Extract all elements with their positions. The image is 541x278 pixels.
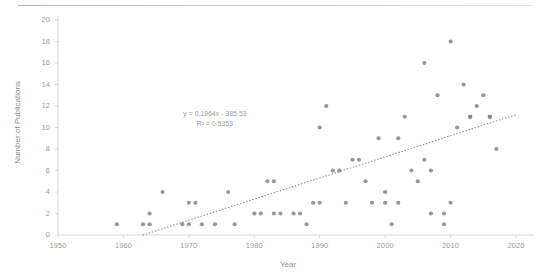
y-tick-label: 16 (24, 58, 50, 67)
data-point (377, 136, 381, 140)
x-tick-label: 2020 (496, 241, 536, 250)
trendline (143, 115, 516, 235)
trendline-equation: y = 0.1964x - 385.53 (160, 109, 270, 119)
data-point (448, 39, 452, 43)
trendline-r-squared: R² = 0.5353 (160, 119, 270, 129)
data-point (259, 211, 263, 215)
data-point (193, 201, 197, 205)
data-point (298, 211, 302, 215)
y-tick-label: 8 (24, 144, 50, 153)
data-point (200, 222, 204, 226)
y-tick-label: 0 (24, 230, 50, 239)
data-point (429, 168, 433, 172)
data-point (383, 201, 387, 205)
trendline-annotation: y = 0.1964x - 385.53 R² = 0.5353 (160, 109, 270, 129)
data-point (180, 222, 184, 226)
x-axis-title: Year (258, 260, 318, 269)
data-point (265, 179, 269, 183)
x-tick-label: 1990 (300, 241, 340, 250)
data-point (383, 190, 387, 194)
data-point (252, 211, 256, 215)
data-point (305, 222, 309, 226)
data-point (390, 222, 394, 226)
y-tick-label: 20 (24, 15, 50, 24)
data-point (468, 115, 472, 119)
x-tick-label: 1950 (38, 241, 78, 250)
data-point (481, 93, 485, 97)
y-tick-label: 18 (24, 37, 50, 46)
data-point (494, 147, 498, 151)
data-point (233, 222, 237, 226)
x-tick-label: 2010 (431, 241, 471, 250)
data-point (442, 222, 446, 226)
data-point (187, 201, 191, 205)
data-point (213, 222, 217, 226)
data-point (337, 168, 341, 172)
data-point (396, 201, 400, 205)
data-point (161, 190, 165, 194)
data-point (488, 115, 492, 119)
x-tick-label: 1960 (103, 241, 143, 250)
data-point (324, 104, 328, 108)
y-axis-title: Number of Publications (13, 73, 22, 173)
data-point (416, 179, 420, 183)
data-point (187, 222, 191, 226)
data-point (422, 61, 426, 65)
data-point (442, 211, 446, 215)
data-point (291, 211, 295, 215)
data-point (370, 201, 374, 205)
data-point (396, 136, 400, 140)
data-point (350, 158, 354, 162)
data-point (344, 201, 348, 205)
y-tick-label: 6 (24, 166, 50, 175)
data-point (272, 179, 276, 183)
data-point (422, 158, 426, 162)
x-tick-label: 1970 (169, 241, 209, 250)
publications-scatter-chart: 02468101214161820 1950196019701980199020… (0, 0, 541, 278)
data-point (429, 211, 433, 215)
plot-area (0, 0, 541, 278)
y-tick-label: 14 (24, 80, 50, 89)
data-point (448, 201, 452, 205)
data-point-group (115, 39, 499, 226)
data-point (141, 222, 145, 226)
y-tick-label: 10 (24, 123, 50, 132)
data-point (462, 82, 466, 86)
x-tick-label: 2000 (365, 241, 405, 250)
data-point (318, 125, 322, 129)
data-point (403, 115, 407, 119)
data-point (455, 125, 459, 129)
data-point (148, 222, 152, 226)
x-tick-label: 1980 (234, 241, 274, 250)
data-point (357, 158, 361, 162)
y-tick-label: 4 (24, 187, 50, 196)
data-point (311, 201, 315, 205)
data-point (318, 201, 322, 205)
y-tick-label: 12 (24, 101, 50, 110)
data-point (226, 190, 230, 194)
data-point (148, 211, 152, 215)
data-point (435, 93, 439, 97)
data-point (475, 104, 479, 108)
data-point (115, 222, 119, 226)
data-point (272, 211, 276, 215)
data-point (278, 211, 282, 215)
data-point (363, 179, 367, 183)
data-point (409, 168, 413, 172)
y-tick-label: 2 (24, 209, 50, 218)
data-point (331, 168, 335, 172)
